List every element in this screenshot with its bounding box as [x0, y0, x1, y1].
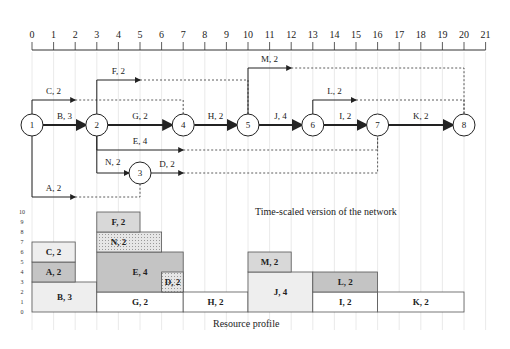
resource-y-tick-label: 2	[21, 289, 24, 295]
activity-label: I, 2	[339, 111, 351, 121]
resource-y-tick-label: 3	[21, 279, 24, 285]
axis-tick-label: 6	[159, 29, 164, 40]
axis-tick-label: 12	[286, 29, 296, 40]
resource-y-tick-label: 5	[21, 259, 24, 265]
event-node-label: 1	[30, 120, 35, 130]
axis-tick-label: 4	[116, 29, 121, 40]
resource-block-label: A, 2	[46, 267, 62, 277]
axis-tick-label: 5	[138, 29, 143, 40]
resource-y-tick-label: 4	[21, 269, 24, 275]
resource-block-label: L, 2	[338, 277, 354, 287]
activity-arrow	[97, 136, 129, 173]
event-node-label: 6	[311, 120, 316, 130]
axis-tick-label: 8	[202, 29, 207, 40]
resource-block-label: H, 2	[208, 297, 225, 307]
float-dashed-line	[183, 136, 377, 150]
axis-tick-label: 14	[329, 29, 339, 40]
axis-tick-label: 17	[394, 29, 404, 40]
axis-tick-label: 10	[243, 29, 253, 40]
activity-label: F, 2	[112, 66, 125, 76]
resource-y-tick-label: 1	[21, 299, 24, 305]
event-node-label: 3	[138, 168, 143, 178]
time-axis: 0123456789101112131415161718192021	[30, 29, 491, 50]
axis-tick-label: 16	[373, 29, 383, 40]
activity-label: D, 2	[159, 159, 175, 169]
activity-label: A, 2	[46, 183, 62, 193]
resource-block-label: B, 3	[57, 292, 73, 302]
axis-tick-label: 3	[94, 29, 99, 40]
axis-tick-label: 18	[416, 29, 426, 40]
event-node-label: 4	[181, 120, 186, 130]
resource-y-tick-label: 6	[21, 249, 24, 255]
activity-label: J, 4	[274, 111, 287, 121]
float-dashed-line	[140, 80, 248, 114]
activity-label: M, 2	[261, 54, 278, 64]
axis-tick-label: 19	[437, 29, 447, 40]
float-dashed-line	[75, 184, 140, 197]
resource-block-label: D, 2	[165, 277, 181, 287]
resource-block-label: E, 4	[132, 267, 148, 277]
resource-y-tick-label: 10	[19, 209, 25, 215]
resource-block-label: N, 2	[111, 237, 127, 247]
axis-tick-label: 0	[30, 29, 35, 40]
axis-tick-label: 20	[459, 29, 469, 40]
resource-block-label: J, 4	[274, 287, 288, 297]
axis-tick-label: 13	[308, 29, 318, 40]
float-dashed-line	[75, 100, 183, 114]
resource-block-label: I, 2	[339, 297, 352, 307]
resource-block-label: F, 2	[112, 217, 126, 227]
resource-y-tick-label: 9	[21, 219, 24, 225]
activity-label: C, 2	[46, 86, 61, 96]
resource-block	[97, 232, 162, 252]
resource-y-tick-label: 0	[21, 309, 24, 315]
activity-label: B, 3	[57, 111, 73, 121]
activity-label: N, 2	[105, 157, 121, 167]
event-node-label: 7	[375, 120, 380, 130]
float-dashed-line	[356, 100, 464, 114]
resource-block-label: K, 2	[413, 297, 430, 307]
axis-tick-label: 2	[73, 29, 78, 40]
event-node-label: 2	[95, 120, 100, 130]
resource-caption: Resource profile	[213, 318, 280, 329]
resource-y-tick-label: 8	[21, 229, 24, 235]
activity-label: H, 2	[208, 111, 224, 121]
axis-tick-label: 21	[481, 29, 491, 40]
network-caption: Time-scaled version of the network	[255, 206, 397, 217]
resource-y-tick-label: 7	[21, 239, 24, 245]
activity-label: K, 2	[413, 111, 429, 121]
axis-tick-label: 1	[51, 29, 56, 40]
event-node-label: 8	[462, 120, 467, 130]
resource-block-label: C, 2	[46, 247, 62, 257]
axis-tick-label: 11	[265, 29, 275, 40]
resource-y-axis: 012345678910	[19, 209, 25, 315]
axis-tick-label: 7	[181, 29, 186, 40]
axis-tick-label: 15	[351, 29, 361, 40]
event-node-label: 5	[246, 120, 251, 130]
axis-tick-label: 9	[224, 29, 229, 40]
resource-block-label: G, 2	[132, 297, 149, 307]
activity-label: E, 4	[133, 136, 148, 146]
activity-label: L, 2	[327, 86, 342, 96]
time-scaled-network-diagram: 0123456789101112131415161718192021 B, 3C…	[0, 0, 510, 349]
float-dashed-line	[183, 136, 377, 173]
activity-label: G, 2	[132, 111, 148, 121]
resource-block-label: M, 2	[261, 257, 279, 267]
